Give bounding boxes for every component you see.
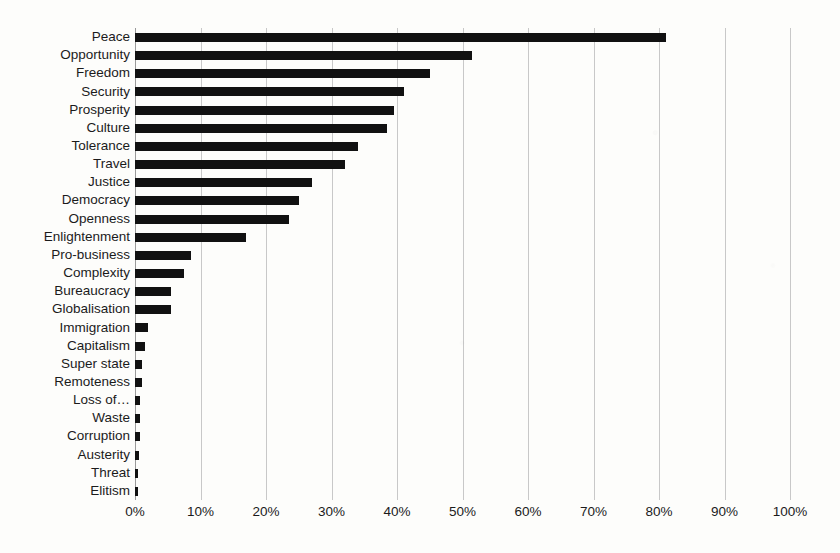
- y-axis-label: Justice: [0, 175, 130, 189]
- bar: [135, 451, 139, 460]
- x-axis-tick-label: 20%: [252, 504, 279, 519]
- bar: [135, 178, 312, 187]
- x-axis-tick-label: 90%: [711, 504, 738, 519]
- y-axis-label: Enlightenment: [0, 230, 130, 244]
- y-axis-label: Freedom: [0, 66, 130, 80]
- y-axis-label: Democracy: [0, 193, 130, 207]
- y-axis-label: Globalisation: [0, 302, 130, 316]
- y-axis-label: Peace: [0, 30, 130, 44]
- y-axis-category-labels: PeaceOpportunityFreedomSecurityProsperit…: [0, 28, 130, 500]
- y-axis-label: Corruption: [0, 429, 130, 443]
- bar: [135, 305, 171, 314]
- bar-row: [135, 337, 790, 355]
- plot-area: [135, 28, 790, 500]
- bar: [135, 51, 472, 60]
- x-axis-tick-label: 50%: [449, 504, 476, 519]
- y-axis-label: Waste: [0, 411, 130, 425]
- bar: [135, 33, 666, 42]
- bar: [135, 87, 404, 96]
- x-axis-tick-label: 10%: [187, 504, 214, 519]
- y-axis-label: Culture: [0, 121, 130, 135]
- x-axis-tick-labels: 0%10%20%30%40%50%60%70%80%90%100%: [135, 504, 790, 528]
- bar: [135, 106, 394, 115]
- y-axis-label: Austerity: [0, 448, 130, 462]
- bar-row: [135, 64, 790, 82]
- y-axis-label: Super state: [0, 357, 130, 371]
- bar-row: [135, 391, 790, 409]
- x-axis-tick-label: 0%: [125, 504, 145, 519]
- bar: [135, 378, 142, 387]
- bar-row: [135, 155, 790, 173]
- bar-row: [135, 228, 790, 246]
- bar: [135, 124, 387, 133]
- bar: [135, 414, 140, 423]
- x-axis-tick-label: 40%: [383, 504, 410, 519]
- bar-row: [135, 137, 790, 155]
- gridline-100%: [790, 28, 791, 500]
- bar-row: [135, 427, 790, 445]
- bar: [135, 487, 138, 496]
- bar-row: [135, 119, 790, 137]
- bar-row: [135, 282, 790, 300]
- bar: [135, 342, 145, 351]
- y-axis-label: Bureaucracy: [0, 284, 130, 298]
- bar-row: [135, 355, 790, 373]
- bar-row: [135, 210, 790, 228]
- bar-row: [135, 318, 790, 336]
- bar: [135, 233, 246, 242]
- y-axis-label: Security: [0, 85, 130, 99]
- bar-row: [135, 464, 790, 482]
- y-axis-label: Tolerance: [0, 139, 130, 153]
- y-axis-label: Immigration: [0, 321, 130, 335]
- bar-row: [135, 246, 790, 264]
- bar: [135, 432, 140, 441]
- bar-row: [135, 101, 790, 119]
- x-axis-tick-label: 80%: [645, 504, 672, 519]
- bar-row: [135, 446, 790, 464]
- bar: [135, 215, 289, 224]
- bar-row: [135, 46, 790, 64]
- bar-chart: PeaceOpportunityFreedomSecurityProsperit…: [0, 0, 840, 553]
- y-axis-label: Openness: [0, 212, 130, 226]
- y-axis-label: Opportunity: [0, 48, 130, 62]
- bar: [135, 396, 140, 405]
- bar: [135, 323, 148, 332]
- bar: [135, 160, 345, 169]
- bar-row: [135, 373, 790, 391]
- bar-row: [135, 264, 790, 282]
- x-axis-tick-label: 70%: [580, 504, 607, 519]
- bar-row: [135, 82, 790, 100]
- bar-row: [135, 28, 790, 46]
- y-axis-label: Threat: [0, 466, 130, 480]
- y-axis-label: Capitalism: [0, 339, 130, 353]
- bar: [135, 196, 299, 205]
- bar: [135, 360, 142, 369]
- bar: [135, 142, 358, 151]
- bar-row: [135, 191, 790, 209]
- bar-row: [135, 482, 790, 500]
- y-axis-label: Loss of…: [0, 393, 130, 407]
- bar: [135, 287, 171, 296]
- x-axis-tick-label: 30%: [318, 504, 345, 519]
- y-axis-label: Remoteness: [0, 375, 130, 389]
- y-axis-label: Complexity: [0, 266, 130, 280]
- bar-row: [135, 409, 790, 427]
- bar-row: [135, 300, 790, 318]
- bar-row: [135, 173, 790, 191]
- bar: [135, 269, 184, 278]
- bars-layer: [135, 28, 790, 500]
- bar: [135, 69, 430, 78]
- y-axis-label: Travel: [0, 157, 130, 171]
- x-axis-tick-label: 100%: [773, 504, 808, 519]
- y-axis-label: Prosperity: [0, 103, 130, 117]
- bar: [135, 469, 138, 478]
- x-axis-tick-label: 60%: [514, 504, 541, 519]
- y-axis-label: Elitism: [0, 484, 130, 498]
- bar: [135, 251, 191, 260]
- y-axis-label: Pro-business: [0, 248, 130, 262]
